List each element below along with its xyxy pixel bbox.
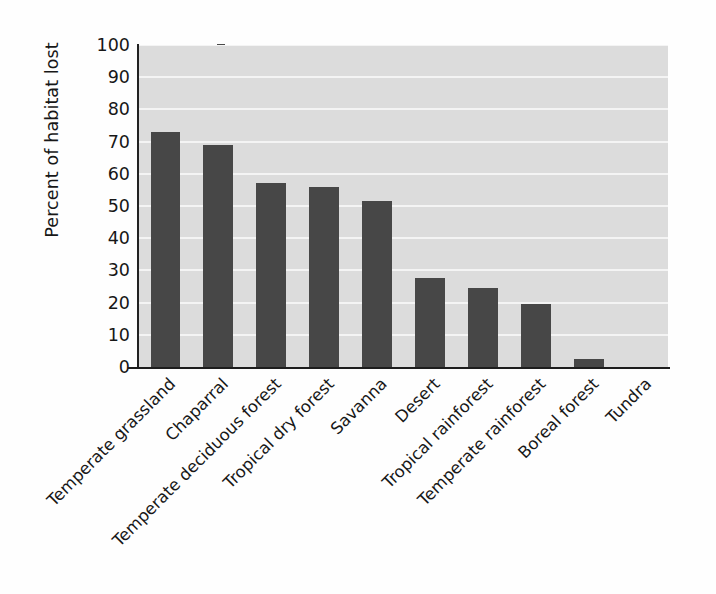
y-axis-title: Percent of habitat lost [42,10,62,270]
y-axis-tick-labels: 0102030405060708090100 [86,0,130,594]
bar [309,187,339,367]
plot-area [139,45,668,367]
y-tick-label: 70 [86,132,130,152]
y-tick-label: 10 [86,325,130,345]
bar [203,145,233,367]
bar [574,359,604,367]
bar [415,278,445,367]
bar [362,201,392,367]
bar [151,132,181,367]
y-tick-label: 60 [86,164,130,184]
x-tick-label: Savanna [327,374,391,438]
y-tick-label: 80 [86,99,130,119]
gridline [139,45,668,46]
y-tick-label: 100 [86,35,130,55]
bar [521,304,551,367]
bar [468,288,498,367]
bar [256,183,286,367]
x-axis-line [128,367,670,369]
x-tick-label: Desert [391,374,443,426]
gridline [139,108,668,110]
y-tick-label: 50 [86,196,130,216]
x-tick-label: Tundra [602,374,655,427]
y-tick-label: 40 [86,228,130,248]
y-tick-label: 30 [86,260,130,280]
gridline [139,141,668,143]
habitat-loss-bar-chart: Percent of habitat lost 0102030405060708… [0,0,716,594]
y-tick-label: 20 [86,293,130,313]
gridline [139,76,668,78]
y-tick-label: 0 [86,357,130,377]
y-tick-label: 90 [86,67,130,87]
